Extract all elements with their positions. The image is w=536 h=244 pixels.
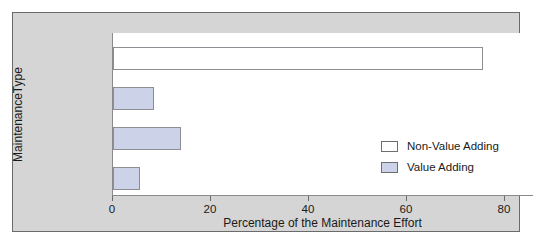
- x-tick-mark-80: [504, 196, 505, 201]
- legend-swatch-non-value-adding: [381, 141, 398, 152]
- x-axis-title: Percentage of the Maintenance Effort: [112, 216, 533, 230]
- x-tick-label-80: 80: [484, 202, 524, 216]
- bar-adaptive[interactable]: [113, 87, 154, 110]
- x-tick-label-20: 20: [190, 202, 230, 216]
- chart-panel: MaintenanceType Corrective Adaptive Perf…: [12, 12, 520, 232]
- x-tick-mark-0: [112, 196, 113, 201]
- chart-figure: MaintenanceType Corrective Adaptive Perf…: [0, 0, 536, 244]
- chart-legend: Non-Value Adding Value Adding: [381, 137, 499, 179]
- y-axis-title: MaintenanceType: [10, 33, 26, 196]
- legend-swatch-value-adding: [381, 162, 398, 173]
- x-tick-label-0: 0: [92, 202, 132, 216]
- bar-perfective[interactable]: [113, 127, 181, 150]
- x-tick-label-40: 40: [288, 202, 328, 216]
- bar-preventive[interactable]: [113, 167, 140, 190]
- x-tick-mark-20: [210, 196, 211, 201]
- x-tick-label-60: 60: [386, 202, 426, 216]
- legend-label-non-value-adding: Non-Value Adding: [407, 140, 499, 153]
- legend-label-value-adding: Value Adding: [407, 161, 474, 174]
- x-tick-mark-40: [308, 196, 309, 201]
- x-tick-mark-60: [406, 196, 407, 201]
- legend-item-value-adding[interactable]: Value Adding: [381, 158, 499, 176]
- legend-item-non-value-adding[interactable]: Non-Value Adding: [381, 137, 499, 155]
- plot-area: Non-Value Adding Value Adding: [112, 33, 533, 196]
- bar-corrective[interactable]: [113, 47, 483, 70]
